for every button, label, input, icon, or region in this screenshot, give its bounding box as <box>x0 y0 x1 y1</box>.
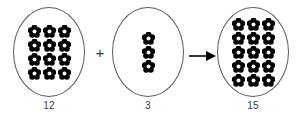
flower-icon <box>262 74 275 87</box>
flower-icon <box>58 67 71 80</box>
flower-icon <box>58 53 71 66</box>
flower-icon <box>28 67 41 80</box>
token-row <box>232 60 275 73</box>
group-label-addend-2: 3 <box>112 100 184 112</box>
flower-icon <box>43 67 56 80</box>
flower-icon <box>28 53 41 66</box>
token-row <box>28 39 71 52</box>
flower-icon <box>58 25 71 38</box>
flower-icon <box>262 60 275 73</box>
group-sum <box>217 7 289 97</box>
flower-icon <box>232 32 245 45</box>
token-row <box>28 25 71 38</box>
flower-icon <box>232 46 245 59</box>
flower-icon <box>247 74 260 87</box>
flower-icon <box>247 46 260 59</box>
group-label-sum: 15 <box>217 100 289 112</box>
flower-icon <box>142 60 155 73</box>
group-addend-2 <box>112 7 184 97</box>
flower-icon <box>232 18 245 31</box>
token-row <box>28 53 71 66</box>
token-row <box>142 46 155 59</box>
token-row <box>232 32 275 45</box>
token-grid-addend-2 <box>112 7 184 97</box>
token-row <box>28 67 71 80</box>
token-row <box>232 46 275 59</box>
flower-icon <box>58 39 71 52</box>
flower-icon <box>43 39 56 52</box>
flower-icon <box>262 46 275 59</box>
flower-icon <box>232 60 245 73</box>
group-addend-1 <box>13 7 85 97</box>
flower-icon <box>247 32 260 45</box>
flower-icon <box>142 46 155 59</box>
flower-icon <box>28 25 41 38</box>
flower-icon <box>43 53 56 66</box>
addition-diagram: 12 + 3 15 <box>0 0 302 122</box>
plus-operator-icon: + <box>92 45 108 61</box>
flower-icon <box>28 39 41 52</box>
token-row <box>142 32 155 45</box>
flower-icon <box>262 18 275 31</box>
token-row <box>142 60 155 73</box>
flower-icon <box>262 32 275 45</box>
flower-icon <box>43 25 56 38</box>
flower-icon <box>232 74 245 87</box>
flower-icon <box>142 32 155 45</box>
flower-icon <box>247 18 260 31</box>
token-grid-sum <box>217 7 289 97</box>
token-row <box>232 18 275 31</box>
group-label-addend-1: 12 <box>13 100 85 112</box>
flower-icon <box>247 60 260 73</box>
right-arrow-icon <box>189 48 216 64</box>
token-row <box>232 74 275 87</box>
token-grid-addend-1 <box>13 7 85 97</box>
